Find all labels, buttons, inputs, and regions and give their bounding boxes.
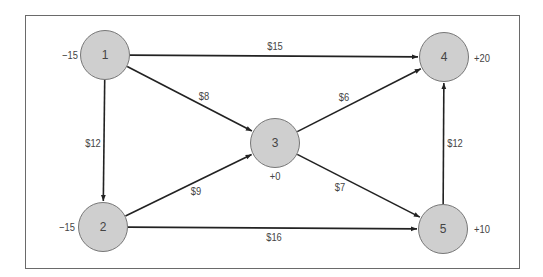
edge-1-2 bbox=[103, 80, 104, 201]
edge-cost-label: $12 bbox=[85, 137, 101, 149]
edge-cost-label: $9 bbox=[191, 185, 201, 197]
node-supply-label: +0 bbox=[270, 170, 281, 182]
node-label: 2 bbox=[100, 220, 107, 234]
edge-2-3 bbox=[125, 154, 251, 216]
edge-1-4 bbox=[130, 55, 418, 57]
node-label: 1 bbox=[102, 48, 109, 62]
node-2: 2 bbox=[78, 202, 128, 252]
edge-cost-label: $16 bbox=[266, 231, 282, 243]
edge-1-3 bbox=[127, 66, 252, 131]
edge-cost-label: $15 bbox=[267, 40, 283, 52]
node-4: 4 bbox=[419, 32, 469, 82]
edge-3-4 bbox=[297, 69, 421, 132]
edge-cost-label: $6 bbox=[339, 91, 349, 103]
node-supply-label: +20 bbox=[474, 52, 490, 64]
edge-cost-label: $12 bbox=[447, 137, 463, 149]
node-label: 4 bbox=[441, 50, 448, 64]
edge-3-5 bbox=[297, 154, 420, 217]
edge-2-5 bbox=[128, 227, 417, 229]
node-supply-label: −15 bbox=[59, 221, 75, 233]
edge-cost-label: $8 bbox=[199, 90, 209, 102]
edge-cost-label: $7 bbox=[335, 181, 345, 193]
node-label: 3 bbox=[272, 136, 279, 150]
edge-5-4 bbox=[443, 83, 444, 204]
node-label: 5 bbox=[440, 222, 447, 236]
node-5: 5 bbox=[418, 204, 468, 254]
node-1: 1 bbox=[80, 30, 130, 80]
node-supply-label: +10 bbox=[474, 223, 490, 235]
node-supply-label: −15 bbox=[62, 49, 78, 61]
node-3: 3 bbox=[250, 118, 300, 168]
